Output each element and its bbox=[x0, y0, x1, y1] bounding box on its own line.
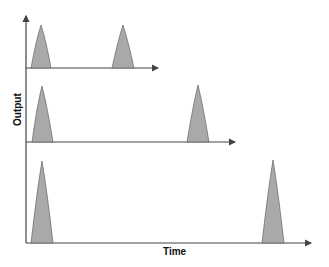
peak bbox=[31, 161, 53, 243]
y-axis-label: Output bbox=[12, 93, 23, 126]
x-axis-label: Time bbox=[163, 246, 187, 257]
chromatogram-diagram: Output Time bbox=[0, 0, 329, 267]
trace-3 bbox=[26, 160, 311, 243]
peak bbox=[31, 25, 51, 68]
peak bbox=[262, 160, 284, 243]
trace-2 bbox=[26, 85, 235, 142]
peak bbox=[187, 85, 209, 142]
peak bbox=[32, 86, 53, 142]
trace-1 bbox=[26, 25, 158, 68]
peak bbox=[112, 25, 134, 68]
